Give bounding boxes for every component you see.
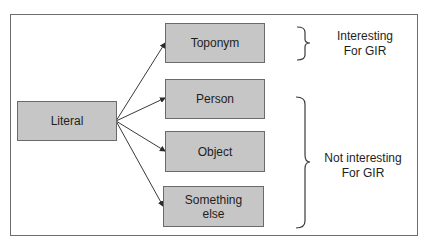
object-box: Object	[165, 131, 265, 172]
literal-box: Literal	[17, 101, 117, 141]
interesting-line2: For GIR	[320, 44, 410, 59]
arrow-to-something-else	[116, 121, 163, 206]
person-box: Person	[165, 79, 265, 119]
not-interesting-line1: Not interesting	[313, 151, 413, 166]
brace-not-interesting-icon	[296, 97, 310, 228]
not-interesting-line2: For GIR	[313, 166, 413, 181]
interesting-line1: Interesting	[320, 29, 410, 44]
person-label: Person	[196, 92, 234, 106]
arrow-to-object	[116, 121, 165, 151]
toponym-box: Toponym	[165, 23, 265, 63]
literal-label: Literal	[51, 114, 84, 128]
not-interesting-group-label: Not interesting For GIR	[313, 151, 413, 181]
interesting-group-label: Interesting For GIR	[320, 29, 410, 59]
something-else-label: Something else	[178, 193, 249, 221]
toponym-label: Toponym	[191, 36, 240, 50]
something-else-box: Something else	[163, 186, 264, 227]
brace-interesting-icon	[297, 27, 310, 60]
object-label: Object	[198, 145, 233, 159]
